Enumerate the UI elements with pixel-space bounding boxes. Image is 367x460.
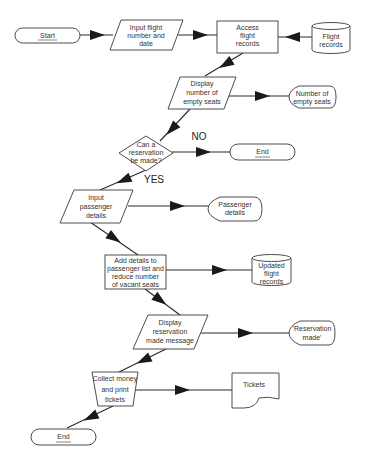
arrowhead-icon	[255, 91, 270, 101]
arrowhead-icon	[135, 352, 153, 368]
arrowhead-icon	[217, 56, 235, 72]
node-label: of vacant seats	[112, 281, 160, 288]
node-label: Number of	[296, 90, 329, 97]
node-label: tickets	[105, 396, 125, 403]
node-label: details	[225, 209, 246, 216]
node-passenger-out: Passenger details	[208, 197, 262, 221]
arrowhead-icon	[212, 265, 227, 275]
node-updated-records: Updated flight records	[252, 255, 291, 286]
arrowhead-icon	[105, 230, 123, 247]
node-label: End	[256, 148, 269, 155]
node-label: Start	[40, 32, 55, 39]
node-end-bottom: End	[31, 429, 96, 445]
node-label: flight	[264, 270, 279, 278]
arrowhead-icon	[170, 201, 185, 211]
node-label: reduce number	[112, 273, 160, 280]
node-add-details: Add details to passenger list and reduce…	[105, 255, 166, 289]
arrowhead-icon	[285, 32, 300, 42]
node-label: flight	[240, 32, 255, 40]
node-label: made message	[146, 337, 194, 345]
node-label: Add details to	[114, 257, 157, 264]
node-label: Display	[191, 80, 214, 88]
arrowhead-icon	[115, 173, 133, 188]
node-label: Can a	[137, 141, 156, 148]
node-label: Input flight	[130, 24, 162, 32]
node-tickets: Tickets	[232, 373, 279, 408]
node-label: and print	[101, 386, 128, 394]
node-reservation-out: 'Reservation made'	[289, 321, 335, 345]
node-label: records	[319, 41, 343, 48]
node-label: details	[86, 212, 107, 219]
node-label: reservation	[153, 328, 188, 335]
node-label: Updated	[258, 262, 285, 270]
node-collect-money: Collect money and print tickets	[92, 372, 138, 406]
node-label: records	[260, 278, 284, 285]
arrowhead-icon	[238, 328, 253, 338]
node-label: Access	[236, 24, 259, 31]
node-end-mid: End	[230, 144, 295, 160]
node-empty-seats-out: Number of empty seats	[289, 86, 336, 108]
node-label: 'Reservation	[293, 325, 332, 332]
node-label: made'	[303, 334, 322, 341]
node-label: Passenger	[218, 201, 252, 209]
branch-label-yes: YES	[144, 174, 164, 185]
arrowhead-icon	[196, 147, 211, 157]
node-flight-records: Flight records	[312, 23, 350, 54]
node-label: passenger	[80, 203, 113, 211]
node-label: number and	[127, 32, 164, 39]
node-label: date	[139, 40, 153, 47]
node-label: be made?	[130, 157, 161, 164]
node-label: number of	[186, 89, 218, 96]
arrowhead-icon	[82, 410, 100, 425]
node-label: End	[57, 433, 70, 440]
node-label: passenger list and	[107, 265, 164, 273]
node-display-reservation: Display reservation made message	[133, 315, 208, 349]
node-display-empty: Display number of empty seats	[168, 77, 236, 109]
document-icon	[232, 373, 279, 408]
arrowhead-icon	[193, 30, 208, 40]
node-label: reservation	[129, 149, 164, 156]
node-label: empty seats	[293, 98, 331, 106]
node-label: Collect money	[93, 375, 138, 383]
node-label: Display	[159, 319, 182, 327]
node-input-passenger: Input passenger details	[60, 190, 133, 223]
branch-label-no: NO	[192, 131, 207, 142]
node-label: Flight	[322, 33, 339, 41]
node-decision: Can a reservation be made?	[119, 136, 173, 171]
arrowhead-icon	[151, 292, 169, 309]
node-label: empty seats	[183, 98, 221, 106]
flowchart-canvas: Start Input flight number and date Acces…	[0, 0, 367, 460]
node-label: Input	[88, 194, 104, 202]
node-label: Tickets	[243, 381, 265, 388]
node-input-flight: Input flight number and date	[110, 20, 183, 50]
arrowhead-icon	[90, 30, 105, 40]
node-access-records: Access flight records	[217, 21, 278, 53]
arrowhead-icon	[175, 385, 190, 395]
node-label: records	[236, 40, 260, 47]
node-start: Start	[15, 28, 80, 43]
